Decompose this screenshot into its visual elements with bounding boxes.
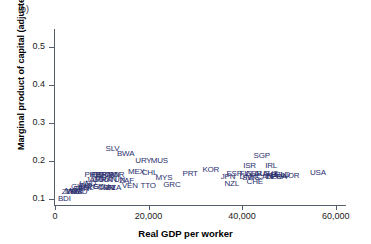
- x-tick-mark: [149, 205, 150, 210]
- x-tick-mark: [55, 205, 56, 210]
- data-point-label: GRC: [163, 181, 180, 189]
- x-tick-label: 40,000: [228, 211, 256, 221]
- data-point-label: PRT: [183, 170, 198, 178]
- data-point-label: SGP: [254, 152, 270, 160]
- figure-panel-b: (b) 0.10.20.30.40.5 020,00040,00060,000 …: [0, 0, 371, 244]
- data-point-label: TTO: [140, 182, 155, 190]
- data-point-label: DZA: [106, 184, 121, 192]
- data-point-label: NOR: [282, 172, 299, 180]
- x-tick-mark: [336, 205, 337, 210]
- data-point-label: VEN: [122, 182, 138, 190]
- x-axis-line: [54, 205, 346, 206]
- x-tick-mark: [242, 205, 243, 210]
- x-tick-label: 20,000: [135, 211, 163, 221]
- scatter-plot-area: BDIZWEZMBMOZBGDSENGHAINDBOLHNDPHLJAMIDNE…: [55, 30, 345, 205]
- data-point-label: NZL: [225, 180, 240, 188]
- x-tick-label: 0: [52, 211, 57, 221]
- x-tick-label: 60,000: [322, 211, 350, 221]
- data-point-label: MUS: [151, 157, 168, 165]
- y-tick-label: 0.1: [14, 193, 45, 203]
- y-tick-label: 0.2: [14, 155, 45, 165]
- y-axis-title: Marginal product of capital (adjusted): [16, 0, 26, 150]
- data-point-label: KOR: [202, 166, 219, 174]
- data-point-label: BWA: [117, 150, 134, 158]
- data-point-label: USA: [310, 169, 326, 177]
- data-point-label: URY: [135, 157, 151, 165]
- x-axis-title: Real GDP per worker: [0, 228, 371, 239]
